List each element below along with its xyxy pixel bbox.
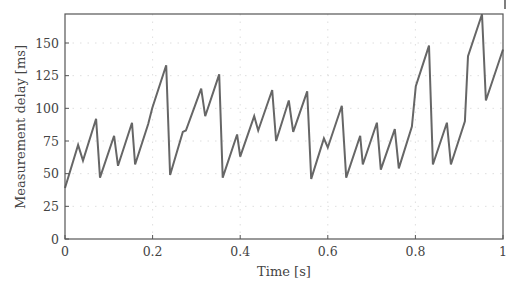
y-tick-label: 25 [43,199,59,214]
y-tick-label: 150 [35,36,59,51]
series-line [65,14,503,188]
axis-ticks: 025507510012515000.20.40.60.81 [35,36,507,260]
y-tick-label: 75 [43,134,59,149]
y-tick-label: 100 [35,101,59,116]
y-tick-label: 0 [51,232,59,247]
x-tick-label: 0.8 [405,244,425,259]
data-series [65,14,503,188]
x-axis-label: Time [s] [257,264,311,279]
x-tick-label: 0.6 [318,244,338,259]
y-tick-label: 50 [43,166,59,181]
y-tick-label: 125 [35,68,59,83]
x-tick-label: 0 [61,244,69,259]
x-tick-label: 0.4 [230,244,250,259]
x-tick-label: 0.2 [143,244,163,259]
y-axis-label: Measurement delay [ms] [13,45,28,209]
x-tick-label: 1 [499,244,507,259]
line-chart: 025507510012515000.20.40.60.81 Time [s] … [0,0,526,292]
